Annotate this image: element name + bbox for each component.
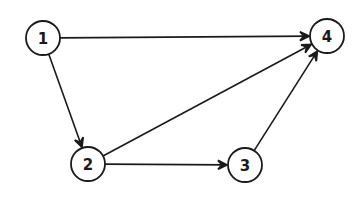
edge-line [103,44,311,155]
node-4-label: 4 [322,28,332,46]
edge-1-to-4 [60,32,309,41]
nodes: 1 2 3 4 [26,19,344,182]
directed-graph: 1 2 3 4 [0,0,363,198]
node-2-label: 2 [83,156,93,174]
arrowhead-icon [309,51,318,61]
node-4: 4 [310,19,344,53]
edge-2-to-3 [105,160,227,169]
edge-line [254,51,317,150]
edge-line [49,54,82,147]
node-3-label: 3 [240,157,250,175]
edge-2-to-4 [103,44,311,155]
edge-3-to-4 [254,51,317,150]
edge-1-to-2 [49,54,83,147]
node-2: 2 [71,147,105,181]
node-3: 3 [228,148,262,182]
edge-line [60,36,309,38]
node-1: 1 [26,21,60,55]
edge-line [105,164,227,165]
node-1-label: 1 [38,30,48,48]
